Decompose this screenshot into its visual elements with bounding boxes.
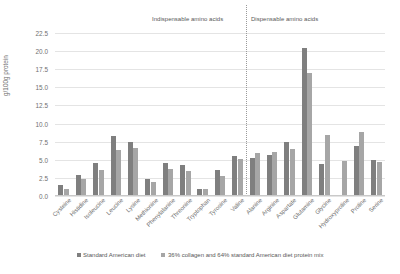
bar-group [125, 33, 142, 196]
y-axis-title: g/100g protein [2, 55, 9, 96]
bar-group [107, 33, 124, 196]
group-header-indispensable: Indispensable amino acids [152, 16, 223, 22]
bar [180, 165, 185, 196]
bar-group [177, 33, 194, 196]
bar [116, 150, 121, 196]
bar [290, 149, 295, 196]
bar [354, 146, 359, 196]
bar [220, 176, 225, 196]
bar [151, 182, 156, 196]
bar-group [194, 33, 211, 196]
bar-group [298, 33, 315, 196]
bar [319, 164, 324, 196]
bar [359, 132, 364, 196]
bar [377, 162, 382, 196]
bar [255, 153, 260, 196]
legend-label: 36% collagen and 64% standard American d… [168, 252, 323, 258]
bar-group [246, 33, 263, 196]
bar [93, 163, 98, 196]
legend-item[interactable]: 36% collagen and 64% standard American d… [161, 252, 323, 258]
bar [133, 148, 138, 196]
bar [168, 169, 173, 196]
y-axis-tick-label: 22.5 [36, 30, 48, 37]
bar-group [142, 33, 159, 196]
bar [267, 155, 272, 196]
legend-item[interactable]: Standard American diet [77, 252, 146, 258]
y-axis-tick-label: 0.0 [39, 193, 48, 200]
bar [342, 161, 347, 196]
bar [325, 135, 330, 196]
plot-area [55, 33, 385, 196]
legend-label: Standard American diet [83, 252, 145, 258]
bar-series-container [55, 33, 385, 196]
bar-group [159, 33, 176, 196]
bar-group [316, 33, 333, 196]
bar [145, 179, 150, 196]
bar [302, 48, 307, 197]
group-header-dispensable: Dispensable amino acids [251, 16, 318, 22]
bar [307, 73, 312, 196]
y-axis-tick-label: 2.5 [39, 174, 48, 181]
bar-group [90, 33, 107, 196]
y-axis-tick-label: 5.0 [39, 156, 48, 163]
bar [272, 152, 277, 196]
bar [186, 171, 191, 196]
bar [232, 156, 237, 196]
bar [81, 179, 86, 196]
x-axis-labels: CysteineHistidineIsoleucineLeucineLysine… [55, 197, 385, 245]
y-axis-tick-label: 10.0 [36, 120, 48, 127]
bar [215, 170, 220, 196]
y-axis-tick-label: 7.5 [39, 138, 48, 145]
bar [238, 159, 243, 196]
bar-group [350, 33, 367, 196]
bar [111, 136, 116, 196]
bar-group [333, 33, 350, 196]
bar [128, 142, 133, 196]
category-group-divider [246, 5, 247, 196]
y-axis-tick-label: 17.5 [36, 66, 48, 73]
chart-legend: Standard American diet36% collagen and 6… [0, 252, 400, 258]
bar-group [368, 33, 385, 196]
legend-swatch-icon [161, 253, 165, 257]
bar [284, 142, 289, 196]
bar [99, 170, 104, 196]
bar-group [264, 33, 281, 196]
legend-swatch-icon [77, 253, 81, 257]
bar [250, 158, 255, 196]
bar [76, 175, 81, 196]
bar-group [55, 33, 72, 196]
bar [371, 160, 376, 196]
bar-group [211, 33, 228, 196]
bar [163, 163, 168, 196]
amino-acid-bar-chart: Indispensable amino acids Dispensable am… [0, 0, 400, 274]
group-header-row: Indispensable amino acids Dispensable am… [0, 0, 400, 28]
bar-group [72, 33, 89, 196]
y-axis-tick-label: 15.0 [36, 84, 48, 91]
bar-group [229, 33, 246, 196]
x-axis-line [55, 195, 385, 196]
bar-group [281, 33, 298, 196]
y-axis-tick-label: 20.0 [36, 48, 48, 55]
y-axis: g/100g protein 0.02.55.07.510.012.515.01… [0, 33, 52, 196]
y-axis-tick-label: 12.5 [36, 102, 48, 109]
